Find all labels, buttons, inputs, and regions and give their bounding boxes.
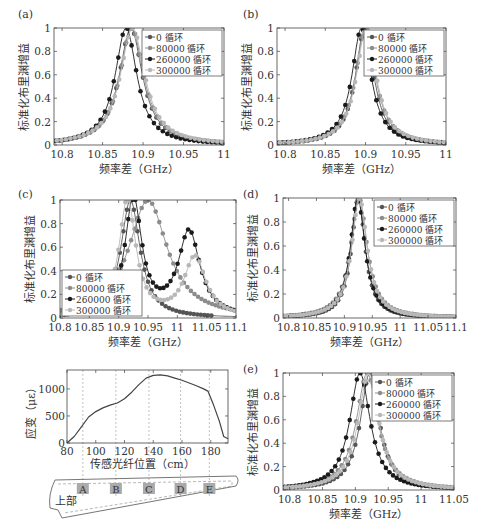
x-tick-label: 140 bbox=[143, 445, 163, 457]
legend: 0 循环80000 循环260000 循环300000 循环 bbox=[142, 30, 222, 76]
data-marker bbox=[117, 77, 122, 82]
data-marker bbox=[387, 470, 392, 475]
y-tick-label: 0.2 bbox=[257, 116, 274, 128]
data-marker bbox=[282, 140, 287, 145]
data-marker bbox=[352, 438, 357, 443]
data-marker bbox=[338, 292, 343, 297]
data-marker bbox=[152, 121, 157, 126]
data-marker bbox=[157, 115, 162, 120]
y-tick-label: 0.8 bbox=[40, 218, 57, 230]
x-tick-label: 10.95 bbox=[168, 148, 198, 160]
data-marker bbox=[424, 138, 429, 143]
data-marker bbox=[370, 77, 375, 82]
data-marker bbox=[375, 79, 380, 84]
data-marker bbox=[86, 131, 91, 136]
legend-entry: 260000 循环 bbox=[386, 399, 441, 410]
data-marker bbox=[349, 454, 354, 459]
data-marker bbox=[291, 140, 296, 145]
y-tick-label: 0.6 bbox=[263, 414, 280, 426]
data-marker bbox=[406, 134, 411, 139]
x-tick-label: 11 bbox=[171, 321, 184, 333]
data-marker bbox=[178, 275, 183, 280]
data-marker bbox=[374, 98, 379, 103]
data-marker bbox=[380, 460, 385, 465]
legend-entry: 0 循环 bbox=[156, 32, 183, 43]
data-marker bbox=[357, 54, 362, 59]
data-marker bbox=[392, 465, 397, 470]
data-marker bbox=[340, 448, 345, 453]
data-marker bbox=[322, 134, 327, 139]
data-marker bbox=[193, 243, 198, 248]
data-marker bbox=[125, 249, 130, 254]
y-tick-label: 1 bbox=[267, 22, 274, 34]
legend-entry: 300000 循环 bbox=[76, 305, 131, 316]
legend-marker bbox=[378, 380, 382, 384]
legend-entry: 80000 循环 bbox=[388, 213, 438, 224]
data-marker bbox=[186, 227, 191, 232]
y-tick-label: 1 bbox=[273, 367, 280, 379]
x-axis-label: 频率差（GHz） bbox=[329, 507, 408, 521]
legend-entry: 0 循环 bbox=[378, 32, 405, 43]
y-tick-label: 0.4 bbox=[263, 437, 280, 449]
data-marker bbox=[377, 421, 382, 426]
panel-a: (a)00.20.40.60.8110.810.8510.910.9511频率差… bbox=[17, 8, 231, 176]
x-tick-label: 10.8 bbox=[50, 148, 73, 160]
data-marker bbox=[174, 135, 179, 140]
panel-label: (b) bbox=[243, 8, 259, 21]
data-marker bbox=[334, 473, 339, 478]
data-marker bbox=[215, 139, 220, 144]
x-tick-label: 10.8 bbox=[278, 493, 301, 505]
position-label: D bbox=[177, 484, 185, 495]
legend: 0 循环80000 循环260000 循环300000 循环 bbox=[364, 30, 444, 76]
data-marker bbox=[164, 242, 169, 247]
data-marker bbox=[90, 128, 95, 133]
x-tick-label: 180 bbox=[201, 445, 221, 457]
data-marker bbox=[209, 313, 214, 318]
panel-e: (e)00.20.40.60.8110.810.8510.910.951111.… bbox=[243, 363, 469, 521]
y-tick-label: 0.2 bbox=[263, 461, 280, 473]
data-marker bbox=[379, 98, 384, 103]
axes-frame bbox=[67, 370, 228, 443]
x-tick-label: 11.05 bbox=[439, 493, 469, 505]
y-tick-label: 0.4 bbox=[34, 92, 51, 104]
data-marker bbox=[179, 133, 184, 138]
legend-marker bbox=[380, 216, 384, 220]
data-marker bbox=[162, 121, 167, 126]
data-marker bbox=[148, 291, 153, 296]
legend-entry: 260000 循环 bbox=[76, 294, 131, 305]
y-tick-label: 0.8 bbox=[34, 45, 51, 57]
x-tick-label: 10.85 bbox=[310, 148, 340, 160]
data-marker bbox=[215, 298, 220, 303]
data-marker bbox=[138, 89, 143, 94]
data-marker bbox=[340, 120, 345, 125]
x-tick-label: 11 bbox=[414, 493, 427, 505]
data-marker bbox=[375, 289, 380, 294]
data-marker bbox=[317, 135, 322, 140]
data-marker bbox=[144, 78, 149, 83]
data-marker bbox=[384, 466, 389, 471]
data-marker bbox=[146, 279, 151, 284]
data-marker bbox=[326, 132, 331, 137]
data-marker bbox=[304, 138, 309, 143]
data-marker bbox=[187, 263, 192, 268]
data-marker bbox=[204, 280, 209, 285]
data-marker bbox=[441, 140, 446, 145]
data-marker bbox=[381, 438, 386, 443]
data-marker bbox=[125, 27, 130, 32]
data-marker bbox=[169, 134, 174, 139]
data-marker bbox=[286, 140, 291, 145]
data-marker bbox=[384, 450, 389, 455]
data-marker bbox=[366, 249, 371, 254]
y-tick-label: 1 bbox=[44, 22, 51, 34]
data-marker bbox=[378, 295, 383, 300]
data-marker bbox=[182, 235, 187, 240]
data-marker bbox=[104, 115, 109, 120]
data-marker bbox=[356, 33, 361, 38]
data-marker bbox=[355, 377, 360, 382]
x-tick-label: 10.8 bbox=[48, 321, 71, 333]
data-marker bbox=[392, 129, 397, 134]
data-marker bbox=[153, 209, 158, 214]
data-marker bbox=[309, 137, 314, 142]
data-marker bbox=[383, 120, 388, 125]
x-tick-label: 10.8 bbox=[277, 321, 300, 333]
